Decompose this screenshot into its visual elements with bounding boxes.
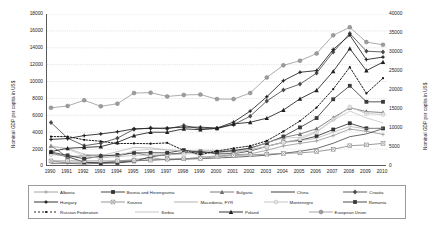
data-point-marker [111,190,115,194]
y-tick-left: 14000 [17,45,43,50]
data-point-marker [349,66,351,68]
legend-row: AlbaniaBosnia and HerzegovinaBulgariaChi… [33,188,401,197]
data-point-marker [232,97,236,101]
data-point-marker [348,46,352,50]
data-point-marker [365,143,369,147]
data-point-marker [265,145,269,149]
legend-item-label: Croatia [368,190,383,195]
data-point-marker [265,75,269,79]
data-point-marker [281,63,285,67]
data-point-marker [83,139,85,141]
y-axis-right-title: Nominal GDP per capita in US$ [423,83,428,150]
data-point-marker [111,200,115,204]
data-point-marker [381,43,385,47]
legend-item[interactable]: Croatia [342,188,401,197]
legend-swatch-icon [100,188,126,196]
data-point-marker [348,25,352,29]
data-point-marker [44,200,48,204]
legend-item[interactable]: European Union [308,208,401,217]
legend-item-label: Bulgaria [235,190,252,195]
data-point-marker [282,144,286,148]
legend-item-label: Kosovo [126,200,142,205]
legend-item[interactable]: Bosnia and Herzegovina [100,188,210,197]
data-point-marker [381,141,385,145]
legend-item[interactable]: Kosovo [100,198,173,207]
y-tick-left: 6000 [17,113,43,118]
legend-swatch-icon [33,198,59,206]
data-point-marker [248,153,252,157]
data-point-marker [233,147,235,149]
data-point-marker [49,159,53,163]
legend-item[interactable]: Macedonia, FYR [173,198,262,207]
data-point-marker [319,210,323,214]
y-tick-left: 16000 [17,28,43,33]
data-point-marker [132,159,136,163]
legend-item[interactable]: Bulgaria [209,188,270,197]
data-point-marker [115,102,119,106]
y-tick-left: 8000 [17,96,43,101]
data-point-marker [199,157,203,161]
data-point-marker [49,106,53,110]
plot-area [46,14,386,166]
legend-row: Russian FederationSerbiaPolandEuropean U… [33,208,401,217]
data-point-marker [282,140,286,144]
data-point-marker [149,91,153,95]
y-tick-right: 25000 [389,68,415,73]
legend-item[interactable]: Poland [218,208,308,217]
legend-item[interactable]: Russian Federation [33,208,134,217]
data-point-marker [281,88,285,93]
data-point-marker [298,151,302,155]
y-tick-right: 40000 [389,11,415,16]
legend-swatch-icon [173,198,199,206]
data-point-marker [381,50,385,55]
legend-item-label: Russian Federation [59,210,98,215]
data-point-marker [150,143,152,145]
data-point-marker [149,127,153,131]
data-point-marker [165,151,169,155]
legend-item[interactable]: Montenegro [263,198,342,207]
legend-item[interactable]: China [270,188,342,197]
data-point-marker [265,152,269,156]
data-point-marker [348,121,352,125]
data-point-marker [149,151,153,155]
legend-swatch-icon [342,188,368,196]
data-point-marker [248,91,252,95]
legend-item[interactable]: Romania [342,198,401,207]
data-point-marker [166,142,168,144]
legend-item-label: China [296,190,308,195]
data-point-marker [331,128,335,132]
data-point-marker [381,100,385,104]
data-point-marker [365,92,367,94]
legend-item-label: Romania [368,200,387,205]
legend-swatch-icon [33,208,59,216]
data-point-marker [44,190,48,194]
legend-item-label: European Union [334,210,367,215]
legend-item[interactable]: Serbia [134,208,218,217]
data-point-marker [67,135,69,137]
data-point-marker [116,130,120,134]
data-point-marker [315,116,319,120]
legend-item[interactable]: Hungary [33,198,100,207]
data-point-marker [381,60,385,64]
data-point-marker [298,59,302,63]
data-point-marker [99,154,103,158]
data-point-marker [331,147,335,151]
y-tick-right: 35000 [389,30,415,35]
data-point-marker [381,55,385,59]
data-point-marker [66,154,70,158]
data-point-marker [382,77,384,79]
data-point-marker [99,132,103,136]
data-point-marker [282,130,284,132]
data-point-marker [182,152,186,156]
data-point-marker [45,211,47,213]
data-point-marker [331,33,335,37]
y-tick-right: 30000 [389,49,415,54]
data-point-marker [165,157,169,161]
y-tick-right: 0 [389,163,415,168]
data-point-marker [266,140,268,142]
y-tick-right: 15000 [389,106,415,111]
y-tick-right: 20000 [389,87,415,92]
data-point-marker [116,159,120,163]
legend-item[interactable]: Albania [33,188,100,197]
legend-swatch-icon [134,208,160,216]
